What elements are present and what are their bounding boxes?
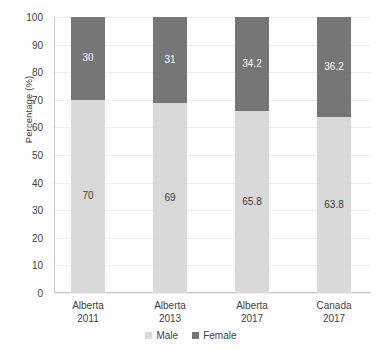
category-year: 2017 <box>290 312 378 325</box>
bar-segment-female[interactable]: 34.2 <box>235 17 269 111</box>
legend-item-male[interactable]: Male <box>145 330 178 341</box>
bar-value-label: 36.2 <box>324 62 343 72</box>
bar-group[interactable]: 7030 <box>71 17 105 293</box>
legend-label: Female <box>203 330 236 341</box>
bar-value-label: 65.8 <box>242 197 261 207</box>
y-axis-tick-label: 60 <box>3 122 43 133</box>
category-name: Alberta <box>44 299 132 312</box>
bar-segment-male[interactable]: 63.8 <box>317 117 351 293</box>
y-axis-tick-label: 20 <box>3 232 43 243</box>
legend-swatch-icon <box>145 332 152 339</box>
category-year: 2013 <box>126 312 214 325</box>
y-axis-tick-label: 70 <box>3 94 43 105</box>
y-axis-tick-label: 10 <box>3 260 43 271</box>
y-axis-tick-label: 40 <box>3 177 43 188</box>
plot-area: 1009080706050403020100 7030693165.834.26… <box>54 17 371 293</box>
legend-label: Male <box>156 330 178 341</box>
bar-value-label: 63.8 <box>324 200 343 210</box>
y-axis-tick-label: 100 <box>3 12 43 23</box>
category-year: 2017 <box>208 312 296 325</box>
x-axis-category-label: Alberta2013 <box>126 299 214 325</box>
bar-group[interactable]: 63.836.2 <box>317 17 351 293</box>
y-axis-tick-label: 0 <box>3 288 43 299</box>
bars-layer: 7030693165.834.263.836.2 <box>54 17 371 293</box>
bar-segment-female[interactable]: 31 <box>153 17 187 103</box>
legend-item-female[interactable]: Female <box>192 330 236 341</box>
category-name: Alberta <box>208 299 296 312</box>
legend-swatch-icon <box>192 332 199 339</box>
stacked-bar-chart: Percentage (%) 1009080706050403020100 70… <box>0 0 382 350</box>
y-axis-tick-label: 50 <box>3 150 43 161</box>
bar-segment-male[interactable]: 70 <box>71 100 105 293</box>
y-axis-tick-label: 30 <box>3 205 43 216</box>
bar-value-label: 30 <box>82 53 93 63</box>
x-axis-category-label: Alberta2011 <box>44 299 132 325</box>
gridline <box>55 293 371 294</box>
category-name: Canada <box>290 299 378 312</box>
bar-segment-male[interactable]: 69 <box>153 103 187 293</box>
legend: MaleFemale <box>0 330 382 341</box>
bar-group[interactable]: 65.834.2 <box>235 17 269 293</box>
x-axis-category-label: Alberta2017 <box>208 299 296 325</box>
x-axis-category-label: Canada2017 <box>290 299 378 325</box>
category-name: Alberta <box>126 299 214 312</box>
bar-segment-female[interactable]: 36.2 <box>317 17 351 117</box>
y-axis-tick-label: 90 <box>3 39 43 50</box>
bar-segment-female[interactable]: 30 <box>71 17 105 100</box>
bar-value-label: 70 <box>82 191 93 201</box>
bar-value-label: 69 <box>164 193 175 203</box>
y-axis-tick-label: 80 <box>3 67 43 78</box>
bar-value-label: 31 <box>164 55 175 65</box>
bar-value-label: 34.2 <box>242 59 261 69</box>
bar-group[interactable]: 6931 <box>153 17 187 293</box>
bar-segment-male[interactable]: 65.8 <box>235 111 269 293</box>
category-year: 2011 <box>44 312 132 325</box>
